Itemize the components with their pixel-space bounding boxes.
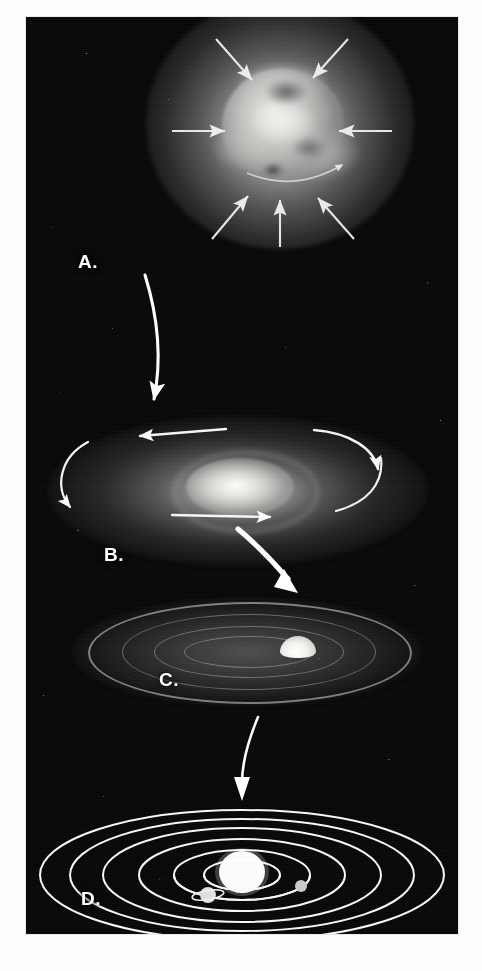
stage-label-c: C. [159,670,179,689]
stage-c-planetesimal-disk [26,592,458,712]
nebula-dark-patch-lower [262,163,284,177]
protostar-core [186,458,294,516]
nebula-dark-patch-upper [264,79,308,105]
stage-a-collapsing-cloud [26,17,458,247]
solar-system-formation-figure: A. B. C. D. [0,0,482,971]
stage-label-b: B. [104,545,124,564]
nebula-dark-patch-right [292,137,326,159]
stage-d-solar-system [26,792,458,934]
stage-label-a: A. [78,252,98,271]
stage-b-rotating-disk [26,412,458,572]
illustration-plate: A. B. C. D. [26,17,458,934]
stage-label-d: D. [81,889,101,908]
